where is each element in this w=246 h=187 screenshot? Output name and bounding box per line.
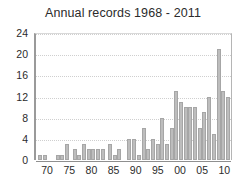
bar [132, 139, 136, 160]
bar [156, 144, 160, 160]
bar [127, 139, 131, 160]
bar [221, 91, 225, 160]
x-tick-label: 10 [219, 164, 231, 176]
bar [165, 144, 169, 160]
axis-baseline [36, 161, 231, 162]
bar [174, 91, 178, 160]
x-tick-label: 00 [174, 164, 186, 176]
bar [217, 49, 221, 160]
x-tick-label: 75 [63, 164, 75, 176]
bar [87, 149, 91, 160]
bar [207, 97, 211, 161]
x-tick-label: 80 [86, 164, 98, 176]
y-axis-tick-labels: 04812162024 [0, 0, 32, 187]
x-tick-label: 70 [41, 164, 53, 176]
y-tick-label: 20 [16, 48, 28, 60]
y-tick-label: 16 [16, 69, 28, 81]
y-tick-label: 8 [22, 112, 28, 124]
bar-series [36, 34, 231, 160]
x-tick-label: 85 [108, 164, 120, 176]
bar [82, 144, 86, 160]
y-tick-label: 12 [16, 91, 28, 103]
x-tick-label: 95 [152, 164, 164, 176]
bar [43, 155, 47, 160]
bar [91, 149, 95, 160]
bar [65, 144, 69, 160]
bar [38, 155, 42, 160]
chart-title: Annual records 1968 - 2011 [0, 6, 246, 20]
bar [160, 118, 164, 160]
bar [188, 107, 192, 160]
bar [212, 134, 216, 160]
bar [101, 149, 105, 160]
bar [170, 128, 174, 160]
bar [202, 112, 206, 160]
x-axis-tick-labels: 707580859095000510 [0, 164, 246, 184]
y-tick-label: 24 [16, 27, 28, 39]
bar [60, 155, 64, 160]
bar [137, 155, 141, 160]
y-tick-label: 4 [22, 133, 28, 145]
bar [108, 144, 112, 160]
bar [56, 155, 60, 160]
bar [113, 155, 117, 160]
x-tick-label: 05 [196, 164, 208, 176]
chart-figure: Annual records 1968 - 2011 04812162024 7… [0, 0, 246, 187]
bar [146, 149, 150, 160]
bar [142, 128, 146, 160]
bar [193, 107, 197, 160]
plot-area [34, 33, 232, 160]
bar [179, 102, 183, 160]
bar [117, 149, 121, 160]
bar [96, 149, 100, 160]
bar [226, 97, 230, 161]
bar [151, 139, 155, 160]
bar [184, 107, 188, 160]
bar [73, 149, 77, 160]
x-tick-label: 90 [130, 164, 142, 176]
bar [198, 128, 202, 160]
bar [77, 155, 81, 160]
